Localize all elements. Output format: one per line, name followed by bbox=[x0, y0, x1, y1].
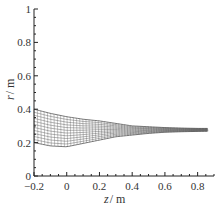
mesh-line-axial bbox=[34, 131, 207, 146]
mesh-line-radial bbox=[113, 123, 114, 137]
y-ticks bbox=[34, 9, 38, 176]
x-axis-label: z/ m bbox=[103, 192, 126, 206]
mesh-line-radial bbox=[64, 116, 65, 147]
mesh-line-radial bbox=[138, 126, 139, 134]
mesh-line-radial bbox=[61, 115, 62, 146]
mesh-line-radial bbox=[54, 114, 55, 146]
mesh-line-radial bbox=[101, 121, 102, 140]
mesh-line-radial bbox=[135, 126, 136, 135]
mesh-line-radial bbox=[83, 119, 84, 143]
x-tick-label: 0.2 bbox=[93, 180, 107, 192]
mesh-line-radial bbox=[37, 110, 38, 143]
mesh-line-radial bbox=[70, 117, 71, 146]
y-tick-labels: 00.20.40.60.81 bbox=[17, 3, 31, 182]
x-tick-labels: −0.200.20.40.60.8 bbox=[24, 180, 205, 192]
y-tick-label: 0.2 bbox=[17, 137, 31, 149]
mesh-line-radial bbox=[130, 126, 131, 136]
y-tick-label: 0.4 bbox=[17, 103, 31, 115]
mesh-line-radial bbox=[141, 126, 142, 134]
mesh-line-radial bbox=[127, 125, 128, 135]
mesh-line-radial bbox=[107, 122, 108, 138]
x-tick-label: 0 bbox=[64, 180, 70, 192]
y-tick-label: 0.8 bbox=[17, 36, 31, 48]
mesh-line-radial bbox=[95, 120, 96, 141]
y-axis-label: r/ m bbox=[3, 78, 17, 100]
mesh-line-radial bbox=[51, 113, 52, 146]
mesh-line-radial bbox=[119, 124, 120, 137]
mesh-line-radial bbox=[86, 120, 87, 143]
mesh-line-radial bbox=[110, 123, 111, 138]
mesh-line-radial bbox=[146, 127, 147, 134]
x-tick-label: 0.4 bbox=[125, 180, 139, 192]
x-tick-label: 0.6 bbox=[158, 180, 172, 192]
mesh-line-radial bbox=[47, 113, 48, 146]
mesh-line-radial bbox=[89, 120, 90, 142]
mesh-line-radial bbox=[80, 119, 81, 144]
mesh-line-radial bbox=[41, 111, 42, 144]
x-ticks bbox=[34, 172, 214, 176]
mesh-line-radial bbox=[122, 124, 123, 136]
mesh-line-radial bbox=[98, 121, 99, 141]
mesh-line-radial bbox=[124, 125, 125, 136]
mesh-line-radial bbox=[104, 122, 105, 140]
axes bbox=[34, 9, 214, 176]
mesh-line-axial bbox=[34, 115, 207, 129]
x-tick-label: 0.8 bbox=[191, 180, 205, 192]
mesh-line-radial bbox=[92, 120, 93, 141]
mesh-line-radial bbox=[116, 123, 117, 136]
mesh-line-radial bbox=[67, 117, 68, 147]
computational-mesh bbox=[34, 109, 208, 147]
mesh-line-radial bbox=[133, 126, 134, 135]
x-tick-label: −0.2 bbox=[24, 180, 44, 192]
mesh-line-radial bbox=[57, 115, 58, 146]
mesh-line-radial bbox=[77, 118, 78, 145]
y-tick-label: 1 bbox=[26, 3, 32, 15]
mesh-line-axial bbox=[34, 109, 207, 128]
mesh-line-radial bbox=[143, 126, 144, 133]
mesh-line-radial bbox=[73, 118, 74, 146]
y-tick-label: 0.6 bbox=[17, 70, 31, 82]
mesh-line-radial bbox=[44, 112, 45, 145]
mesh-chart: 00.20.40.60.81 −0.200.20.40.60.8 z/ m r/… bbox=[0, 0, 224, 215]
